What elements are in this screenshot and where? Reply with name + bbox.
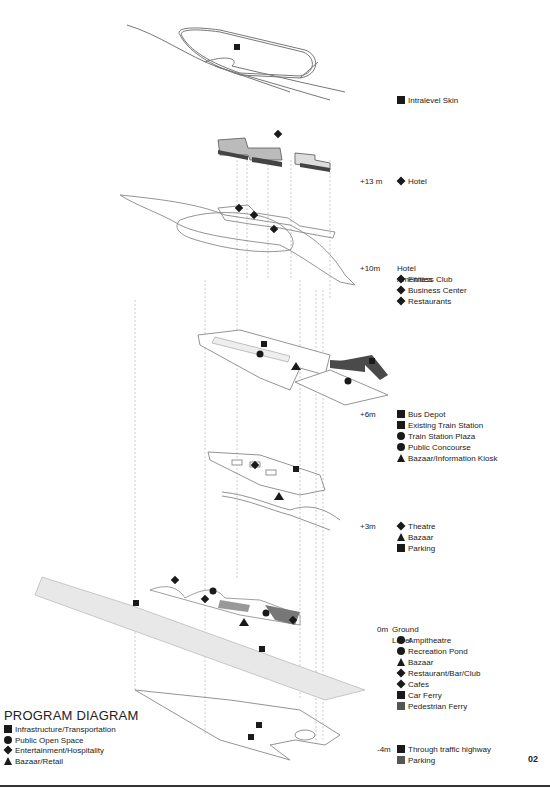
marker-bazaar-3m <box>274 492 284 500</box>
marker-1 <box>234 44 240 50</box>
key-item-open-space: Public Open Space <box>4 736 138 747</box>
figure-title: PROGRAM DIAGRAM <box>4 708 138 723</box>
triangle-icon <box>4 757 12 765</box>
legend-item: Restaurants <box>397 296 451 307</box>
marker-bazaar-0m <box>239 618 249 626</box>
footer-rule <box>0 785 550 787</box>
legend-item: Theatre <box>397 521 436 532</box>
diamond-icon <box>3 745 12 754</box>
circle-icon <box>397 636 405 644</box>
legend-item: Bus Depot <box>397 409 445 420</box>
circle-icon <box>397 432 405 440</box>
key-item-entertainment: Entertainment/Hospitality <box>4 746 138 757</box>
elevation-label: +3m <box>360 521 386 532</box>
level-hotel <box>218 138 330 172</box>
square-icon <box>397 745 405 753</box>
diamond-icon <box>396 668 405 677</box>
square-icon <box>397 756 405 764</box>
elevation-label: +6m <box>360 409 386 420</box>
legend-item: Parking <box>397 543 435 554</box>
square-icon <box>397 702 405 710</box>
legend-item: Public Concourse <box>397 442 471 453</box>
marker-8 <box>345 378 352 385</box>
legend-item: Bazaar/Information Kiosk <box>397 453 497 464</box>
key-item-bazaar: Bazaar/Retail <box>4 757 138 768</box>
marker-15 <box>210 588 217 595</box>
diamond-icon <box>396 296 405 305</box>
level-theatre <box>208 452 340 530</box>
square-icon <box>397 544 405 552</box>
diamond-icon <box>396 285 405 294</box>
marker-5 <box>270 225 278 233</box>
diamond-icon <box>396 176 405 185</box>
marker-19 <box>133 600 139 606</box>
square-icon <box>397 421 405 429</box>
level-intralevel-skin <box>127 25 345 100</box>
elevation-label: +10m <box>360 263 386 274</box>
square-icon <box>397 691 405 699</box>
elevation-label: +13 m <box>360 176 386 187</box>
marker-6 <box>261 341 267 347</box>
square-icon <box>397 96 405 104</box>
legend-item: Cafes <box>397 679 429 690</box>
legend-item: Hotel <box>397 176 427 187</box>
marker-13 <box>293 466 299 472</box>
square-icon <box>397 410 405 418</box>
legend-item: Recreation Pond <box>397 646 468 657</box>
marker-2 <box>274 130 282 138</box>
legend-item: Train Station Plaza <box>397 431 475 442</box>
marker-14 <box>263 610 270 617</box>
legend-item: Intralevel Skin <box>397 95 458 106</box>
circle-icon <box>4 736 12 744</box>
amenity-markers <box>235 204 278 233</box>
legend-item: Restaurant/Bar/Club <box>397 668 480 679</box>
marker-3 <box>250 211 258 219</box>
level-ground <box>35 577 365 700</box>
legend-item: Fitness Club <box>397 274 452 285</box>
legend-item: Business Center <box>397 285 467 296</box>
diamond-icon <box>396 521 405 530</box>
triangle-icon <box>397 533 405 541</box>
key-item-infrastructure: Infrastructure/Transportation <box>4 725 138 736</box>
level-highway <box>135 690 340 760</box>
legend-item: Existing Train Station <box>397 420 483 431</box>
marker-17 <box>171 576 179 584</box>
legend-item: Bazaar <box>397 532 433 543</box>
legend-item: Ampitheatre <box>397 635 451 646</box>
marker-20 <box>259 646 265 652</box>
circle-icon <box>397 443 405 451</box>
circle-icon <box>397 647 405 655</box>
page-number: 02 <box>528 754 538 764</box>
marker-22 <box>256 722 262 728</box>
square-icon <box>4 725 12 733</box>
diamond-icon <box>396 274 405 283</box>
diamond-icon <box>396 679 405 688</box>
triangle-icon <box>397 454 405 462</box>
marker-9 <box>257 351 264 358</box>
triangle-icon <box>397 658 405 666</box>
legend-item: Parking <box>397 755 435 766</box>
legend-item: Through traffic highway <box>397 744 491 755</box>
marker-7 <box>369 358 375 364</box>
legend-item: Car Ferry <box>397 690 442 701</box>
legend-item: Bazaar <box>397 657 433 668</box>
legend-item: Pedestrian Ferry <box>397 701 467 712</box>
marker-21 <box>248 734 254 740</box>
marker-4 <box>235 204 243 212</box>
program-key: PROGRAM DIAGRAM Infrastructure/Transport… <box>4 708 138 767</box>
